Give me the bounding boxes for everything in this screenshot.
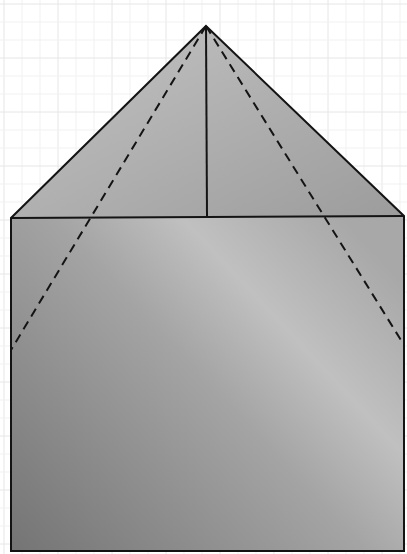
- diagram-canvas: [0, 0, 407, 554]
- folded-paper-shape: [0, 0, 407, 554]
- body-rectangle: [11, 216, 404, 551]
- center-fold-line: [206, 26, 207, 217]
